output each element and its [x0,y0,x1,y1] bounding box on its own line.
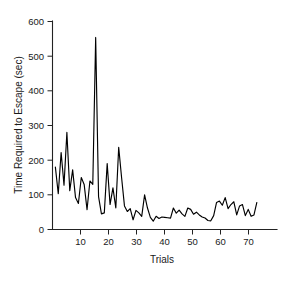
y-tick-label-500: 500 [28,51,44,62]
x-axis-title: Trials [150,254,174,265]
x-tick-label-50: 50 [187,236,198,247]
x-tick-label-40: 40 [159,236,170,247]
y-axis-title: Time Required to Escape (sec) [13,56,24,193]
y-tick-label-600: 600 [28,16,44,27]
y-tick-label-100: 100 [28,189,44,200]
y-tick-group [48,22,53,230]
y-tick-label-400: 400 [28,85,44,96]
x-tick-label-10: 10 [75,236,86,247]
y-tick-label-200: 200 [28,155,44,166]
y-tick-label-0: 0 [39,224,44,235]
x-tick-label-group: 10 20 30 40 50 60 70 [75,236,254,247]
y-tick-label-300: 300 [28,120,44,131]
escape-latency-line-chart: 600 500 400 300 200 100 0 10 20 30 40 50… [0,0,292,283]
data-series-line [55,37,256,221]
x-tick-group [81,230,249,235]
chart-figure: 600 500 400 300 200 100 0 10 20 30 40 50… [0,0,292,283]
x-tick-label-20: 20 [103,236,114,247]
x-tick-label-60: 60 [215,236,226,247]
x-tick-label-30: 30 [131,236,142,247]
y-tick-label-group: 600 500 400 300 200 100 0 [28,16,44,235]
x-tick-label-70: 70 [243,236,254,247]
